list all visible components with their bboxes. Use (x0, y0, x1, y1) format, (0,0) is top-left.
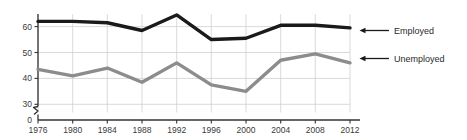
x-tick-label-1988: 1988 (133, 125, 152, 135)
legend-label-employed: Employed (394, 26, 434, 36)
x-tick-label-2004: 2004 (271, 125, 290, 135)
x-tick-label-1992: 1992 (167, 125, 186, 135)
line-chart: 60 50 40 30 0 1976 1980 1984 1988 1992 (0, 0, 467, 140)
y-tick-label-30: 30 (23, 99, 33, 109)
x-tick-label-1996: 1996 (202, 125, 221, 135)
x-tick-label-2008: 2008 (306, 125, 325, 135)
y-tick-label-0: 0 (27, 115, 32, 125)
x-tick-label-1980: 1980 (63, 125, 82, 135)
chart-canvas: 60 50 40 30 0 1976 1980 1984 1988 1992 (0, 0, 467, 140)
legend-label-unemployed: Unemployed (394, 54, 445, 64)
y-tick-label-40: 40 (23, 73, 33, 83)
y-tick-label-60: 60 (23, 22, 33, 32)
x-tick-label-2000: 2000 (237, 125, 256, 135)
x-tick-label-1984: 1984 (98, 125, 117, 135)
y-tick-label-50: 50 (23, 48, 33, 58)
x-tick-label-1976: 1976 (29, 125, 48, 135)
x-tick-label-2012: 2012 (341, 125, 360, 135)
